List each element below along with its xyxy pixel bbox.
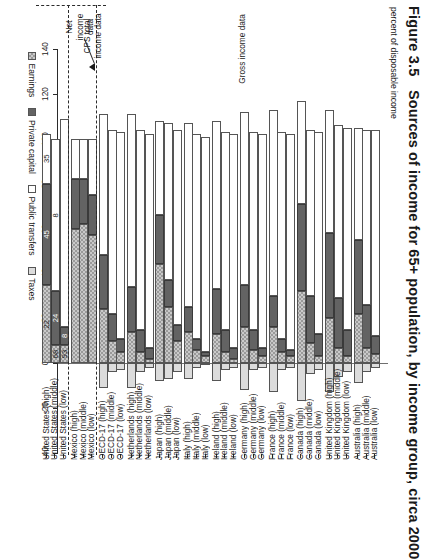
legend-item: Public transfers <box>27 185 37 256</box>
bar-segment-taxes <box>371 363 380 367</box>
bar-segment-taxes <box>314 363 323 370</box>
bar-segment-earnings <box>116 352 125 363</box>
bar-segment-private-capital <box>277 339 286 352</box>
bar-segment-taxes <box>116 363 125 370</box>
bar-segment-earnings <box>221 352 230 363</box>
bar-segment-public-transfers <box>314 132 323 334</box>
bar-segment-private-capital <box>71 179 80 228</box>
bar-row <box>371 49 380 453</box>
bar-segment-earnings <box>258 356 267 363</box>
bar-segment-earnings <box>79 224 88 363</box>
bar-segment-private-capital <box>230 348 239 359</box>
bar-segment-public-transfers <box>371 130 380 336</box>
bar-segment-private-capital <box>334 298 343 347</box>
bar-row <box>173 49 182 453</box>
bar-segment-earnings <box>240 327 249 363</box>
legend-item: Private capital <box>27 108 37 173</box>
bar-row <box>354 49 363 453</box>
bar-segment-private-capital <box>221 330 230 352</box>
bar-segment-private-capital <box>145 348 154 359</box>
bar-segment-public-transfers <box>99 114 108 255</box>
legend-label: Public transfers <box>27 196 37 255</box>
bar-segment-private-capital <box>286 350 295 357</box>
bar-segment-public-transfers <box>156 121 165 215</box>
bar-segment-taxes <box>354 363 363 383</box>
bar-segment-public-transfers <box>249 132 258 330</box>
bar-segment-earnings <box>164 307 173 363</box>
figure-number: Figure 3.5 <box>406 6 422 77</box>
bar-segment-private-capital <box>249 330 258 350</box>
earnings-swatch <box>28 52 36 60</box>
bar-segment-public-transfers <box>116 132 125 338</box>
bar-segment-taxes <box>269 363 278 392</box>
bar-segment-taxes <box>173 363 182 372</box>
bar-segment-private-capital <box>354 240 363 314</box>
bar-segment-taxes <box>343 363 352 372</box>
bar-segment-earnings <box>127 332 136 363</box>
bar-segment-public-transfers <box>136 130 145 330</box>
bar-segment-private-capital <box>297 204 306 292</box>
bar-segment-earnings <box>99 309 108 363</box>
bar-segment-earnings <box>314 356 323 363</box>
bar-row <box>249 49 258 453</box>
legend-label: Earnings <box>27 64 37 98</box>
bar-segment-private-capital <box>136 330 145 352</box>
bar-segment-public-transfers <box>258 134 267 347</box>
category-label: Mexico (high) <box>69 410 79 460</box>
bar-segment-taxes <box>258 363 267 367</box>
bar-row <box>314 49 323 453</box>
bar-segment-public-transfers <box>343 128 352 330</box>
category-label: United States (high) <box>41 387 51 460</box>
bar-row <box>164 49 173 453</box>
bar-segment-public-transfers <box>240 112 249 285</box>
bar-row <box>230 49 239 453</box>
bar-segment-earnings <box>362 348 371 364</box>
bar-segment-taxes <box>362 363 371 372</box>
axis-title: percent of disposable income <box>389 7 399 119</box>
bar-row <box>286 49 295 453</box>
bar-segment-public-transfers <box>325 110 334 233</box>
category-label: Canada (high) <box>296 407 306 460</box>
bar-value-label: 24 <box>51 291 61 345</box>
bar-segment-public-transfers <box>71 139 80 179</box>
bar-segment-private-capital <box>156 215 165 264</box>
bar-segment-public-transfers <box>79 139 88 179</box>
bar-segment-private-capital <box>184 307 193 332</box>
figure-header: Figure 3.5 Sources of income for 65+ pop… <box>405 6 423 559</box>
category-label: Italy (high) <box>182 421 192 460</box>
bar-segment-earnings <box>343 356 352 363</box>
annotation-arrow-icon <box>89 63 95 71</box>
bar-segment-private-capital <box>306 296 315 343</box>
bar-segment-taxes <box>184 363 193 379</box>
legend-item: Taxes <box>27 267 37 301</box>
bar-row <box>184 49 193 453</box>
bar-segment-earnings <box>193 350 202 363</box>
bar-segment-earnings <box>136 352 145 363</box>
bar-row <box>362 49 371 453</box>
bar-segment-earnings <box>212 334 221 363</box>
category-label: Australia (high) <box>352 404 362 460</box>
bar-segment-earnings <box>277 352 286 363</box>
category-label: OECD-17 (high) <box>97 401 107 460</box>
bar-segment-earnings <box>297 291 306 363</box>
bar-segment-taxes <box>297 363 306 401</box>
bar-segment-earnings <box>334 348 343 364</box>
bar-segment-private-capital <box>314 334 323 356</box>
legend-label: Taxes <box>27 278 37 300</box>
bar-segment-private-capital <box>201 352 210 356</box>
legend-item: Earnings <box>27 52 37 97</box>
bar-segment-public-transfers <box>286 134 295 349</box>
bar-segment-private-capital <box>99 255 108 309</box>
bar-row <box>99 49 108 453</box>
bar-row <box>116 49 125 453</box>
bar-segment-taxes <box>193 363 202 367</box>
bar-segment-earnings <box>269 327 278 363</box>
bar-row <box>258 49 267 453</box>
bar-segment-taxes <box>277 363 286 370</box>
bar-segment-taxes <box>221 363 230 370</box>
private-capital-swatch <box>28 108 36 116</box>
bar-segment-taxes <box>286 363 295 367</box>
bar-segment-public-transfers <box>230 134 239 347</box>
